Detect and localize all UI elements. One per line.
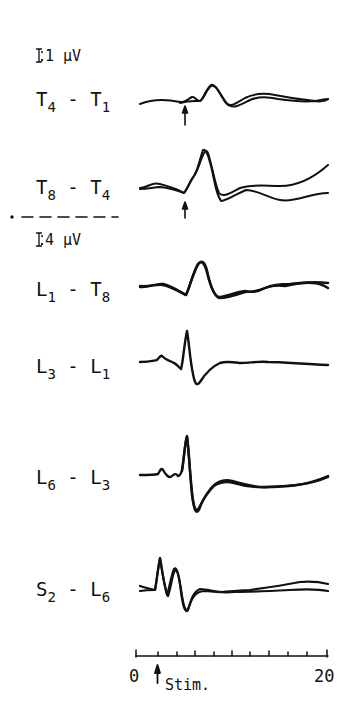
stim-label: Stim. [165,678,210,693]
trace-l6-l3 [140,436,328,512]
trace-s2-l6 [140,558,328,611]
stim-arrow-icon [183,106,188,125]
trace-t4-t1 [140,85,328,107]
x-tick-label-20: 20 [314,668,334,685]
trace-l1-t8 [140,262,328,298]
trace-t8-t4 [140,150,328,201]
stim-arrow-icon [183,202,188,218]
waveform-plot [0,0,348,727]
group-separator [11,216,118,218]
time-axis [136,650,328,657]
stim-arrow-icon [155,665,160,683]
evoked-potential-figure: 1 μV T4 - T1 T8 - T4 4 μV L1 - T8 L3 - L… [0,0,348,727]
x-tick-label-0: 0 [129,668,139,685]
trace-l3-l1 [140,331,328,384]
